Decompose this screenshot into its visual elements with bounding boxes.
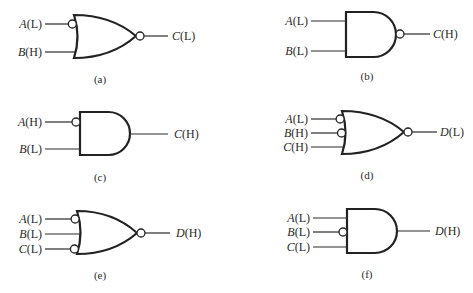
gate-caption: (e) <box>94 269 107 282</box>
input-b-label: B(L) <box>287 225 310 239</box>
gate-d: A(L)B(H)C(H)D(L)(d) <box>283 111 464 182</box>
input-c-label: C(L) <box>287 240 310 254</box>
gate-caption: (a) <box>94 73 107 86</box>
gate-caption: (b) <box>361 70 374 83</box>
input-a-label: A(L) <box>284 14 308 28</box>
input-b-label-level: (H) <box>291 126 308 140</box>
output-label-level: (H) <box>185 226 202 240</box>
output-label: D(L) <box>439 125 464 139</box>
output-label: C(H) <box>433 27 458 41</box>
input-b-label: B(L) <box>19 142 42 156</box>
input-c-label-level: (L) <box>295 240 310 254</box>
logic-gates-diagram: A(L)B(H)C(L)(a)A(L)B(L)C(H)(b)A(H)B(L)C(… <box>0 0 473 293</box>
output-label-level: (H) <box>444 224 461 238</box>
output-label-level: (L) <box>180 29 195 43</box>
output-label-level: (L) <box>449 125 464 139</box>
input-b-label-level: (L) <box>27 142 42 156</box>
gate-b: A(L)B(L)C(H)(b) <box>284 12 457 83</box>
input-a-label: A(H) <box>17 115 42 129</box>
output-label-level: (H) <box>182 127 199 141</box>
output-inversion-bubble-icon <box>136 32 144 40</box>
gate-c: A(H)B(L)C(H)(c) <box>17 112 199 184</box>
and-gate-body <box>80 112 130 155</box>
and-gate-body <box>347 209 397 253</box>
input-a-label: A(L) <box>18 17 42 31</box>
input-a-label: A(L) <box>286 211 310 225</box>
input-a-label: A(L) <box>284 112 308 126</box>
input-a-label-level: (L) <box>27 17 42 31</box>
inversion-bubble-icon <box>70 245 78 253</box>
output-inversion-bubble-icon <box>396 30 404 38</box>
output-label: C(H) <box>174 127 199 141</box>
gate-caption: (f) <box>362 268 373 281</box>
gate-f: A(L)B(L)C(L)D(H)(f) <box>286 209 460 281</box>
or-gate-body <box>74 15 136 58</box>
input-a-label-level: (H) <box>25 115 42 129</box>
or-gate-body <box>342 111 404 154</box>
input-b-label: B(L) <box>19 227 42 241</box>
inversion-bubble-icon <box>337 129 345 137</box>
input-b-label: B(H) <box>18 45 42 59</box>
inversion-bubble-icon <box>336 115 344 123</box>
output-label: D(H) <box>175 226 201 240</box>
gate-a: A(L)B(H)C(L)(a) <box>18 15 195 86</box>
input-b-label: B(H) <box>284 126 308 140</box>
gate-caption: (c) <box>94 171 107 184</box>
input-b-label: B(L) <box>285 44 308 58</box>
and-gate-body <box>346 12 396 57</box>
input-b-label-level: (H) <box>25 45 42 59</box>
output-label-var: D <box>175 226 185 240</box>
output-label: C(L) <box>172 29 195 43</box>
input-c-label-level: (H) <box>291 140 308 154</box>
output-inversion-bubble-icon <box>404 128 412 136</box>
inversion-bubble-icon <box>339 228 347 236</box>
gate-caption: (d) <box>361 169 374 182</box>
output-label-var: D <box>439 125 449 139</box>
input-b-label-level: (L) <box>295 225 310 239</box>
input-a-label: A(L) <box>18 212 42 226</box>
inversion-bubble-icon <box>68 20 76 28</box>
output-label-var: D <box>434 224 444 238</box>
input-b-label-level: (L) <box>27 227 42 241</box>
or-gate-body <box>77 211 137 254</box>
input-a-label-level: (L) <box>293 112 308 126</box>
inversion-bubble-icon <box>72 118 80 126</box>
input-c-label: C(H) <box>283 140 308 154</box>
inversion-bubble-icon <box>71 215 79 223</box>
output-inversion-bubble-icon <box>137 229 145 237</box>
input-a-label-level: (L) <box>27 212 42 226</box>
input-c-label-level: (L) <box>27 242 42 256</box>
input-a-label-level: (L) <box>293 14 308 28</box>
output-label: D(H) <box>434 224 460 238</box>
input-c-label: C(L) <box>19 242 42 256</box>
output-label-level: (H) <box>441 27 458 41</box>
gate-e: A(L)B(L)C(L)D(H)(e) <box>18 211 201 282</box>
input-b-label-level: (L) <box>293 44 308 58</box>
input-a-label-level: (L) <box>295 211 310 225</box>
